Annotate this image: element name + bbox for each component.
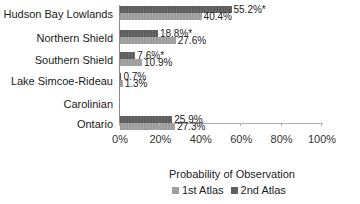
x-tick-mark [119,123,120,126]
legend-swatch-1st-atlas [172,187,179,194]
bar-value-label: 27.3% [177,122,205,131]
x-tick-mark [321,123,322,126]
category-label: Lake Simcoe-Rideau [11,75,113,87]
category-label: Hudson Bay Lowlands [4,8,113,20]
x-tick-mark [159,123,160,126]
bar-value-label: 40.4% [204,12,232,21]
x-tick-label: 80% [271,133,293,145]
x-tick-mark [240,123,241,126]
legend: 1st Atlas 2nd Atlas [172,184,286,196]
x-tick-label: 0% [112,133,128,145]
bar-first-atlas [120,13,202,20]
category-label: Southern Shield [35,54,113,66]
bar-second-atlas [120,73,121,80]
x-tick-label: 60% [230,133,252,145]
category-label: Ontario [77,118,113,130]
bar-first-atlas [120,59,142,66]
x-axis-label: Probability of Observation [169,168,295,180]
x-tick-mark [281,123,282,126]
legend-label-1st-atlas: 1st Atlas [182,184,224,196]
legend-label-2nd-atlas: 2nd Atlas [241,184,286,196]
bar-second-atlas [120,30,158,37]
bar-value-label: 1.3% [125,79,148,88]
x-tick-label: 20% [149,133,171,145]
bar-first-atlas [120,37,176,44]
legend-swatch-2nd-atlas [231,187,238,194]
bar-second-atlas [120,52,135,59]
x-tick-mark [200,123,201,126]
bar-value-label: 27.6% [178,36,206,45]
bar-first-atlas [120,123,175,130]
bar-first-atlas [120,80,123,87]
category-label: Carolinian [63,98,113,110]
x-tick-label: 40% [190,133,212,145]
bar-second-atlas [120,116,172,123]
x-tick-label: 100% [308,133,336,145]
category-label: Northern Shield [37,32,113,44]
bar-value-label: 10.9% [144,58,172,67]
bar-value-label: 55.2%* [234,5,266,14]
